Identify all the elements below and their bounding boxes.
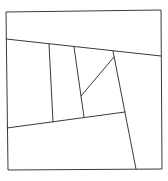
outer-frame: [6, 10, 162, 170]
partition-diagram: [0, 0, 168, 181]
